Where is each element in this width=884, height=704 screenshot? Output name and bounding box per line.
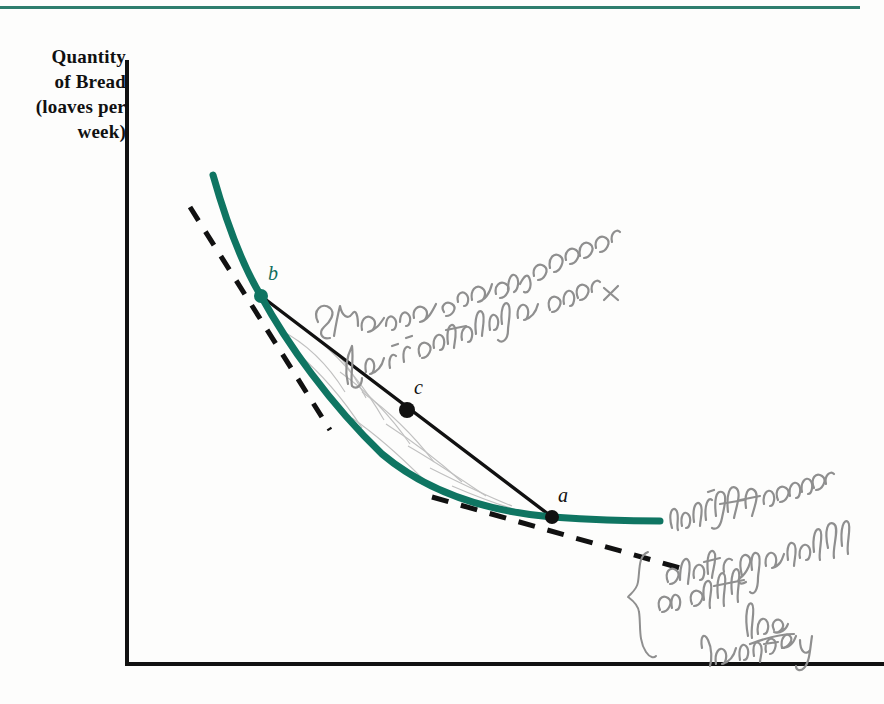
handwritten-note-top [316,231,620,388]
handwritten-note-bottom [659,521,850,670]
point-label-a: a [558,484,568,507]
indifference-curve [213,175,660,521]
plot-axes [127,60,884,664]
point-marker-b [254,289,268,303]
plot-svg [0,0,884,704]
point-label-c: c [414,376,423,399]
handwritten-brace [628,552,656,657]
point-marker-c [399,402,415,418]
tangent-line-at-b [190,207,330,430]
point-label-b: b [268,262,278,285]
handwritten-note-indifference [670,473,834,530]
point-marker-a [545,510,559,524]
figure-canvas: Quantity of Bread (loaves per week) [0,0,884,704]
